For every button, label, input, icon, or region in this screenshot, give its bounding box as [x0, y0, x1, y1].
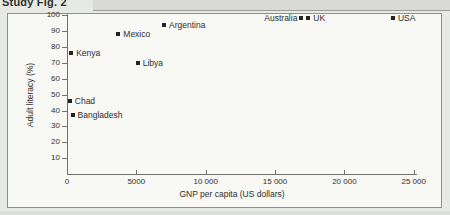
figure-caption: Study Fig. 2 [2, 0, 67, 8]
x-tick-label-5000: 5000 [116, 178, 156, 186]
x-tick-25000 [414, 170, 415, 174]
data-label-argentina: Argentina [169, 20, 205, 29]
y-tick-label-50: 50 [30, 91, 60, 99]
x-tick-10000 [206, 170, 207, 174]
scanned-figure-page: Study Fig. 2 Adult literacy (%) GNP per … [0, 0, 450, 215]
x-axis-title: GNP per capita (US dollars) [179, 189, 284, 199]
data-point-australia [299, 16, 303, 20]
x-axis-line [67, 174, 417, 175]
y-tick-20 [62, 142, 67, 143]
data-point-bangladesh [71, 113, 75, 117]
data-label-chad: Chad [75, 96, 95, 105]
data-label-uk: UK [313, 14, 325, 23]
y-tick-label-100: 100 [30, 11, 60, 19]
y-tick-label-80: 80 [30, 43, 60, 51]
y-tick-label-70: 70 [30, 59, 60, 67]
data-label-mexico: Mexico [123, 30, 150, 39]
y-tick-40 [62, 111, 67, 112]
x-tick-5000 [136, 170, 137, 174]
figure-header: Study Fig. 2 [0, 0, 450, 12]
x-tick-15000 [275, 170, 276, 174]
data-label-usa: USA [398, 14, 415, 23]
data-point-uk [306, 16, 310, 20]
data-label-australia: Australia [264, 14, 297, 23]
data-point-kenya [69, 51, 73, 55]
page-edge [0, 211, 450, 215]
y-tick-60 [62, 79, 67, 80]
y-tick-label-20: 20 [30, 138, 60, 146]
y-tick-70 [62, 63, 67, 64]
data-point-chad [68, 99, 72, 103]
y-tick-label-40: 40 [30, 107, 60, 115]
x-tick-label-20000: 20 000 [324, 178, 364, 186]
header-rule [93, 0, 450, 11]
data-point-argentina [162, 23, 166, 27]
x-tick-label-0: 0 [47, 178, 87, 186]
y-tick-30 [62, 126, 67, 127]
data-label-kenya: Kenya [76, 49, 100, 58]
y-tick-label-10: 10 [30, 154, 60, 162]
data-label-bangladesh: Bangladesh [78, 111, 123, 120]
y-tick-10 [62, 158, 67, 159]
y-tick-label-90: 90 [30, 27, 60, 35]
data-label-libya: Libya [143, 58, 163, 67]
x-tick-label-15000: 15 000 [255, 178, 295, 186]
y-tick-label-30: 30 [30, 122, 60, 130]
y-tick-label-60: 60 [30, 75, 60, 83]
x-tick-label-10000: 10 000 [186, 178, 226, 186]
y-tick-100 [62, 15, 67, 16]
y-axis-line [67, 14, 68, 174]
data-point-libya [136, 61, 140, 65]
x-tick-0 [67, 170, 68, 174]
x-tick-label-25000: 25 000 [394, 178, 434, 186]
y-tick-80 [62, 47, 67, 48]
x-tick-20000 [344, 170, 345, 174]
data-point-usa [391, 16, 395, 20]
data-point-mexico [116, 32, 120, 36]
y-tick-90 [62, 31, 67, 32]
y-tick-50 [62, 95, 67, 96]
